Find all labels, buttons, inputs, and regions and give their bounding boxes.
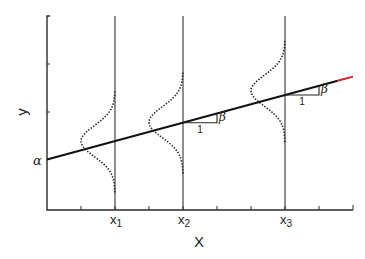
intercept-label: α [33, 153, 42, 168]
y-axis-label: y [13, 108, 30, 116]
unit-run-label: 1 [197, 124, 203, 135]
x-point-subscript: 1 [117, 218, 123, 229]
normal-distribution-curve [251, 39, 285, 141]
regression-line [47, 81, 338, 160]
x-point-labels: x1x2x3 [110, 212, 293, 229]
normal-distribution-curve [149, 71, 183, 173]
axes [47, 16, 353, 210]
x-point-subscript: 3 [287, 218, 293, 229]
axes-frame [47, 16, 353, 210]
x-point-label: x2 [178, 212, 191, 229]
regression-line-group [47, 77, 353, 160]
x-point-subscript: 2 [185, 218, 191, 229]
unit-run-label: 1 [299, 96, 305, 107]
x-axis-label: X [194, 233, 204, 250]
x-point-label: x1 [110, 212, 123, 229]
slope-label: β [218, 110, 226, 124]
x-point-label: x3 [280, 212, 293, 229]
slope-label: β [320, 82, 328, 96]
regression-diagram: 1β1β α y X x1x2x3 [0, 0, 365, 259]
regression-line-tip [338, 77, 353, 81]
x-verticals [115, 16, 285, 210]
normal-distribution-curve [81, 90, 115, 192]
